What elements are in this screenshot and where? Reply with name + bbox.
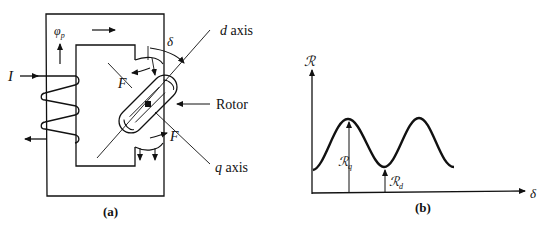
pole-face-lower — [135, 143, 163, 150]
rotor-label: Rotor — [216, 97, 248, 112]
d-axis-line — [97, 30, 210, 158]
pole-face-upper — [135, 57, 163, 64]
reluctance-curve — [313, 118, 454, 170]
caption-a: (a) — [103, 204, 118, 219]
x-axis-label: δ — [530, 186, 537, 201]
figure-a: I φp d axis q axis δ F F — [7, 14, 253, 219]
flux-label: φp — [54, 24, 65, 40]
current-label: I — [7, 68, 14, 84]
force-label-upper: F — [117, 76, 127, 91]
figure-b: ℛ δ ℛq ℛd (b) — [304, 54, 537, 215]
q-axis-label: q axis — [215, 160, 248, 175]
q-axis-line-lower — [155, 112, 210, 164]
delta-arc — [150, 48, 184, 63]
rd-label: ℛd — [389, 174, 404, 191]
force-label-lower: F — [169, 129, 179, 144]
rq-label: ℛq — [338, 154, 352, 171]
coil-winding — [35, 76, 79, 143]
caption-b: (b) — [415, 200, 431, 215]
x-axis — [312, 191, 525, 193]
y-axis-label: ℛ — [304, 54, 316, 69]
flux-line-in — [152, 58, 155, 75]
d-axis-label: d axis — [220, 23, 253, 38]
figure-canvas: I φp d axis q axis δ F F — [0, 0, 554, 228]
delta-label: δ — [167, 34, 174, 49]
force-arrow-upper — [132, 68, 150, 73]
rotor-center — [145, 101, 151, 107]
